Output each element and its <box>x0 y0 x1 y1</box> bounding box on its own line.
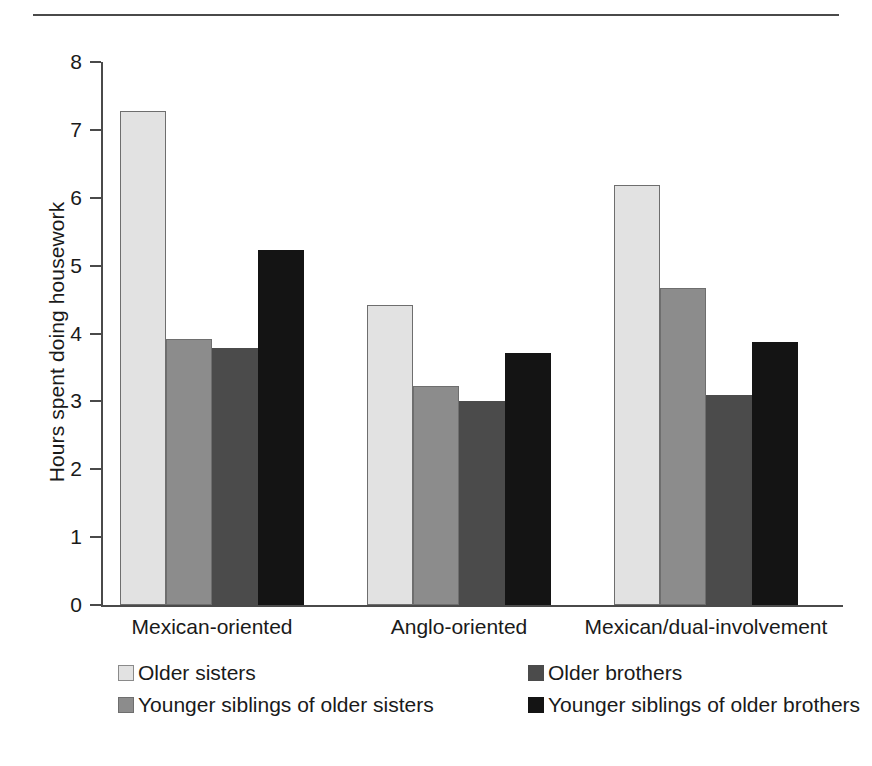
legend-swatch-icon <box>528 697 544 713</box>
legend-item: Younger siblings of older brothers <box>528 694 860 715</box>
bar <box>166 339 212 605</box>
legend-label: Older sisters <box>138 662 256 683</box>
legend-label: Younger siblings of older sisters <box>138 694 434 715</box>
plot-area: Hours spent doing housework 876543210 Me… <box>0 0 872 766</box>
legend-row: Older sistersOlder brothers <box>118 662 818 694</box>
figure-root: Hours spent doing housework 876543210 Me… <box>0 0 872 766</box>
legend-item: Younger siblings of older sisters <box>118 694 434 715</box>
bar <box>212 348 258 605</box>
legend-swatch-icon <box>118 697 134 713</box>
chart-legend: Older sistersOlder brothers Younger sibl… <box>118 662 818 726</box>
legend-swatch-icon <box>118 665 134 681</box>
bar <box>258 250 304 605</box>
bars-layer <box>0 0 872 766</box>
legend-item: Older brothers <box>528 662 682 683</box>
legend-label: Older brothers <box>548 662 682 683</box>
x-axis-category-label: Mexican/dual-involvement <box>536 616 872 637</box>
bar <box>367 305 413 605</box>
bar <box>706 395 752 605</box>
bar <box>752 342 798 605</box>
legend-row: Younger siblings of older sistersYounger… <box>118 694 818 726</box>
legend-label: Younger siblings of older brothers <box>548 694 860 715</box>
bar <box>413 386 459 605</box>
legend-item: Older sisters <box>118 662 256 683</box>
bar <box>614 185 660 605</box>
bar <box>505 353 551 605</box>
bar <box>459 401 505 605</box>
bar <box>120 111 166 605</box>
legend-swatch-icon <box>528 665 544 681</box>
bar <box>660 288 706 605</box>
